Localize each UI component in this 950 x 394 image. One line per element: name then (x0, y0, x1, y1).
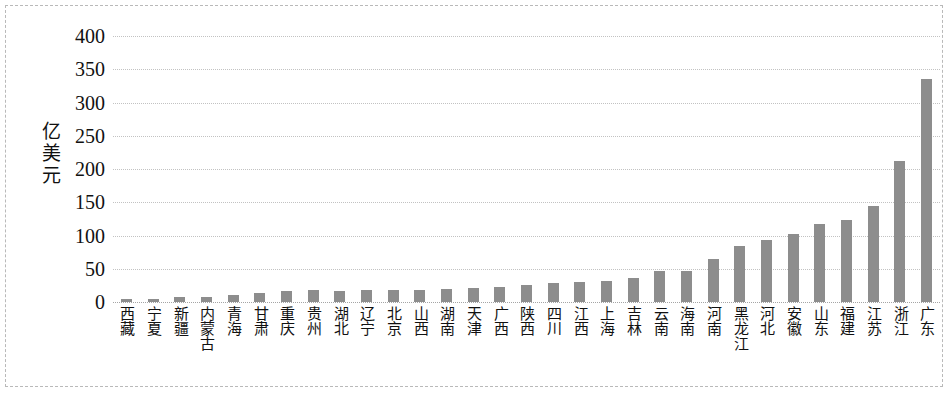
x-axis-tick-label: 上海 (599, 306, 614, 336)
bar-slot (700, 36, 727, 302)
x-axis-tick-label: 河北 (759, 306, 774, 336)
bar (761, 240, 772, 303)
y-axis-tick-labels: 400350300250200150100500 (35, 36, 105, 302)
bar (548, 283, 559, 302)
bar-slot (540, 36, 567, 302)
bar-slot (753, 36, 780, 302)
x-label-slot: 广西 (486, 304, 513, 392)
x-label-slot: 贵州 (300, 304, 327, 392)
x-label-slot: 西藏 (113, 304, 140, 392)
bar (468, 288, 479, 302)
bar-slot (246, 36, 273, 302)
x-label-slot: 河北 (753, 304, 780, 392)
bar-slot (300, 36, 327, 302)
bar-slot (113, 36, 140, 302)
bar (574, 282, 585, 302)
bar-slot (486, 36, 513, 302)
bar (788, 234, 799, 302)
bar-slot (326, 36, 353, 302)
y-axis-tick-label: 400 (35, 26, 105, 46)
x-axis-tick-label: 甘肃 (252, 306, 267, 336)
x-label-slot: 宁夏 (140, 304, 167, 392)
bar (201, 297, 212, 302)
x-label-slot: 陕西 (513, 304, 540, 392)
y-axis-tick-label: 50 (35, 259, 105, 279)
x-label-slot: 河南 (700, 304, 727, 392)
x-axis-tick-label: 陕西 (519, 306, 534, 336)
x-label-slot: 湖北 (326, 304, 353, 392)
x-axis-tick-label: 福建 (839, 306, 854, 336)
x-axis-tick-label: 山西 (412, 306, 427, 336)
bar-slot (886, 36, 913, 302)
x-axis-tick-label: 重庆 (279, 306, 294, 336)
bar-slot (620, 36, 647, 302)
bar (841, 220, 852, 302)
x-label-slot: 浙江 (886, 304, 913, 392)
bar-chart: 亿美元 400350300250200150100500 西藏宁夏新疆内蒙古青海… (0, 0, 950, 394)
bar-slot (220, 36, 247, 302)
bar-slot (193, 36, 220, 302)
x-axis-tick-label: 湖南 (439, 306, 454, 336)
x-label-slot: 广东 (913, 304, 940, 392)
x-axis-tick-label: 山东 (812, 306, 827, 336)
bar (654, 271, 665, 302)
x-axis-tick-label: 北京 (386, 306, 401, 336)
x-axis-tick-label: 海南 (679, 306, 694, 336)
y-axis-tick-label: 150 (35, 192, 105, 212)
bar (494, 287, 505, 302)
x-label-slot: 新疆 (166, 304, 193, 392)
x-label-slot: 湖南 (433, 304, 460, 392)
bar-slot (913, 36, 940, 302)
bar-slot (166, 36, 193, 302)
bar (228, 295, 239, 302)
x-axis-tick-label: 新疆 (172, 306, 187, 336)
bar-slot (380, 36, 407, 302)
y-axis-tick-label: 200 (35, 159, 105, 179)
bar (601, 281, 612, 302)
x-label-slot: 江苏 (860, 304, 887, 392)
bar-slot (460, 36, 487, 302)
bar (254, 293, 265, 302)
x-label-slot: 甘肃 (246, 304, 273, 392)
bar-slot (833, 36, 860, 302)
y-axis-tick-label: 100 (35, 226, 105, 246)
x-label-slot: 福建 (833, 304, 860, 392)
x-label-slot: 江西 (566, 304, 593, 392)
bar (388, 290, 399, 302)
x-axis-tick-label: 天津 (466, 306, 481, 336)
bar-slot (780, 36, 807, 302)
bar-slot (726, 36, 753, 302)
bar (521, 285, 532, 302)
x-label-slot: 黑龙江 (726, 304, 753, 392)
bar-slot (140, 36, 167, 302)
bar-slot (806, 36, 833, 302)
x-axis-tick-label: 浙江 (892, 306, 907, 336)
x-axis-tick-label: 安徽 (786, 306, 801, 336)
bar (681, 271, 692, 302)
bar-slot (566, 36, 593, 302)
x-axis-tick-label: 江苏 (866, 306, 881, 336)
x-label-slot: 安徽 (780, 304, 807, 392)
x-axis-tick-label: 贵州 (306, 306, 321, 336)
x-axis-tick-label: 青海 (226, 306, 241, 336)
bar (148, 299, 159, 302)
bar-slot (433, 36, 460, 302)
bar-series (113, 36, 940, 302)
bar-slot (273, 36, 300, 302)
x-axis-tick-label: 广东 (919, 306, 934, 336)
bar (814, 224, 825, 302)
bar-slot (593, 36, 620, 302)
bar-slot (860, 36, 887, 302)
x-axis-tick-label: 广西 (492, 306, 507, 336)
y-axis-tick-label: 0 (35, 292, 105, 312)
x-axis-tick-label: 西藏 (119, 306, 134, 336)
x-axis-tick-label: 湖北 (332, 306, 347, 336)
bar-slot (353, 36, 380, 302)
bar (441, 289, 452, 302)
x-label-slot: 北京 (380, 304, 407, 392)
x-label-slot: 山西 (406, 304, 433, 392)
y-axis-tick-label: 250 (35, 126, 105, 146)
x-axis-tick-label: 辽宁 (359, 306, 374, 336)
x-label-slot: 吉林 (620, 304, 647, 392)
bar-slot (673, 36, 700, 302)
